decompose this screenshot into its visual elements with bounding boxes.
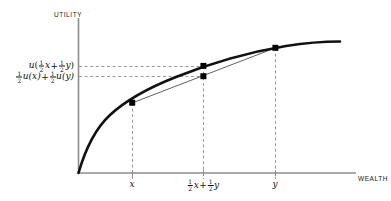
x-axis-title: WEALTH [358, 175, 388, 182]
y-label-2-plus: + [41, 71, 50, 81]
x-label-2-fraction-1: 12 [187, 179, 193, 192]
plot-canvas [0, 0, 391, 201]
y-tick-label-mean-of-u: 12u(x)+12u(y) [0, 71, 74, 84]
x-tick-label-y: y [272, 179, 277, 189]
y-label-2-fraction-1: 12 [16, 71, 22, 84]
data-point-midpoint-on-curve [200, 63, 206, 69]
x-label-2-frac2-denominator: 2 [208, 186, 214, 192]
x-label-2-frac1-denominator: 2 [187, 186, 193, 192]
x-tick-label-x: x [129, 179, 134, 189]
y-label-2-frac2-denominator: 2 [50, 78, 56, 84]
y-label-2-fraction-2: 12 [50, 71, 56, 84]
y-label-2-u-of-x: u(x) [23, 71, 41, 81]
y-label-2-frac1-denominator: 2 [16, 78, 22, 84]
y-label-2-u-of-y: u(y) [56, 71, 74, 81]
x-tick-label-midpoint: 12x+12y [187, 179, 219, 192]
y-label-1-close-paren: ) [70, 60, 74, 70]
utility-function-figure: UTILITY WEALTH u(12x+12y) 12u(x)+12u(y) … [0, 0, 391, 201]
x-label-2-fraction-2: 12 [208, 179, 214, 192]
x-label-2-var-y: y [214, 180, 219, 190]
x-label-2-plus: + [199, 180, 208, 190]
utility-curve [79, 42, 341, 174]
data-point-y-on-curve [272, 45, 278, 51]
y-label-1-open-paren: ( [35, 60, 39, 70]
data-point-x-on-curve [129, 100, 135, 106]
data-point-midpoint-on-chord [200, 73, 206, 79]
y-axis-title: UTILITY [54, 11, 82, 18]
